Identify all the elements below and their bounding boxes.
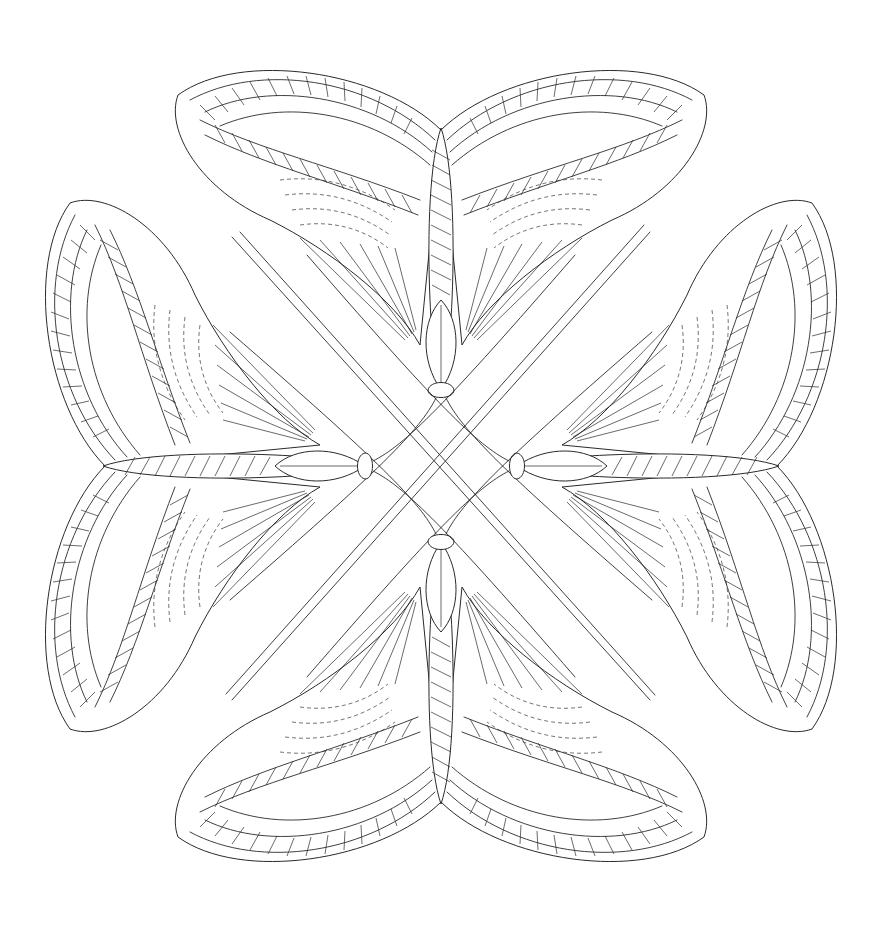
moth-mandala-artwork	[0, 0, 882, 944]
